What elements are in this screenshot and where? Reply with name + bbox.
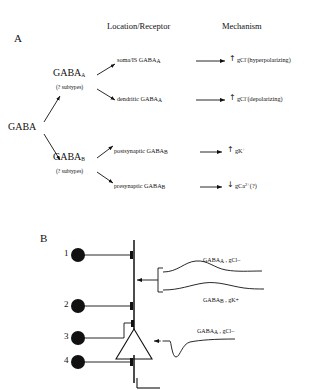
node-gaba-a: GABAA <box>53 68 85 79</box>
node-gaba-b-label: GABA <box>53 151 81 162</box>
node-gaba-a-subtypes: (? subtypes) <box>56 85 83 91</box>
trace-label-3-receptor: GABA <box>197 328 214 334</box>
neuron-number-2: 2 <box>64 300 69 309</box>
mechanism-text-row-3: gK <box>235 147 243 154</box>
direction-arrow-row-4: ↓ <box>227 181 234 189</box>
mechanism-text-row-1: gCl <box>237 56 246 63</box>
tree-connector-gabab-row2 <box>97 172 113 183</box>
soma-triangle <box>116 329 152 359</box>
node-gaba-b: GABAB <box>53 152 85 163</box>
mechanism-label-row-1: gCl-(hyperpolarizing) <box>237 57 291 63</box>
location-label-row-2: dendritic GABAA <box>117 96 162 104</box>
location-subscript-row-2: A <box>158 97 162 103</box>
trace-label-2: GABAB , gK+ <box>203 297 239 305</box>
mechanism-note-row-1: (hyperpolarizing) <box>247 56 290 63</box>
column-header-location: Location/Receptor <box>107 22 170 31</box>
mechanism-note-row-4: (?) <box>250 182 257 189</box>
mechanism-text-row-2: gCl <box>237 95 246 102</box>
trace-label-3: GABAA , gCl– <box>197 328 234 336</box>
location-label-row-4: presynaptic GABAB <box>114 183 165 191</box>
neuron-soma-2 <box>71 299 85 313</box>
mechanism-text-row-4: gCa <box>235 182 245 189</box>
node-gaba-a-subscript: A <box>81 72 85 78</box>
node-gaba-a-label: GABA <box>53 67 81 78</box>
trace-label-3-conductance: gCl– <box>223 328 235 334</box>
mechanism-label-row-4: gCa2+(?) <box>235 183 257 189</box>
tree-connector-gabaa-row2 <box>97 89 115 100</box>
location-text-row-3: postsynaptic GABA <box>114 147 164 154</box>
neuron-soma-1 <box>71 248 85 262</box>
figure-gaba-receptors: A Location/Receptor Mechanism GABA GABAA… <box>0 0 309 390</box>
location-label-row-1: soma/IS GABAA <box>117 57 160 65</box>
location-text-row-1: soma/IS GABA <box>117 56 156 63</box>
location-text-row-2: dendritic GABA <box>117 95 158 102</box>
location-label-row-3: postsynaptic GABAB <box>114 148 168 156</box>
direction-arrow-row-1: ↑ <box>229 55 236 63</box>
column-header-mechanism: Mechanism <box>222 22 262 31</box>
direction-arrow-row-3: ↑ <box>227 146 234 154</box>
trace-label-1-conductance: gCl– <box>229 257 241 263</box>
neuron-number-1: 1 <box>64 249 69 258</box>
trace-label-2-conductance: gK+ <box>228 297 239 303</box>
location-text-row-4: presynaptic GABA <box>114 182 162 189</box>
panel-b-letter: B <box>40 233 47 244</box>
neuron-number-4: 4 <box>64 356 69 365</box>
neuron-soma-4 <box>71 355 85 369</box>
axon-neuron-3 <box>81 320 134 338</box>
trace-label-2-receptor: GABA <box>203 297 220 303</box>
axon-neuron-1 <box>81 251 133 259</box>
location-subscript-row-3: B <box>164 149 168 155</box>
mechanism-label-row-2: gCl-(depolarizing) <box>237 96 283 102</box>
scale-bar <box>137 378 160 388</box>
tree-connector-root-to-gabaa <box>44 96 60 122</box>
panel-a-letter: A <box>14 33 22 44</box>
trace-label-1: GABAA , gCl– <box>203 257 240 265</box>
node-gaba-root: GABA <box>8 122 36 132</box>
direction-arrow-row-2: ↑ <box>229 94 236 102</box>
tree-connector-gabab-row1 <box>97 146 113 158</box>
node-gaba-b-subscript: B <box>81 156 85 162</box>
trace-label-1-receptor: GABA <box>203 257 220 263</box>
trace-waveform-3 <box>154 339 235 357</box>
location-subscript-row-1: A <box>156 58 160 64</box>
tree-connector-gabaa-row1 <box>97 64 115 75</box>
mechanism-note-row-2: (depolarizing) <box>247 95 282 102</box>
neuron-soma-3 <box>71 331 85 345</box>
mechanism-label-row-3: gK+ <box>235 148 245 154</box>
mechanism-superscript-row-3: + <box>243 147 246 152</box>
trace-bracket-dendritic <box>137 268 163 292</box>
trace-waveform-2 <box>163 283 264 290</box>
axon-neuron-2 <box>81 302 133 310</box>
node-gaba-b-subtypes: (? subtypes) <box>56 169 83 175</box>
location-subscript-row-4: B <box>162 184 166 190</box>
neuron-number-3: 3 <box>64 332 69 341</box>
